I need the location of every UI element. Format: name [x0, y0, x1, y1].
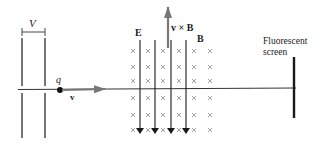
velocity-arrow [62, 89, 105, 90]
magnetic-field-label: B [197, 34, 204, 44]
velocity-label: v [70, 93, 75, 102]
voltage-bracket [22, 28, 45, 36]
screen-label-line1: Fluorescent [263, 37, 307, 47]
screen-label-line2: screen [263, 48, 287, 58]
force-label: v × B [171, 23, 193, 33]
diagram-canvas [0, 0, 326, 144]
charge-label: q [56, 75, 61, 85]
electric-field-lines [140, 40, 186, 133]
accelerating-plates [22, 38, 45, 138]
voltage-label: V [29, 18, 36, 29]
electric-field-label: E [135, 28, 142, 38]
